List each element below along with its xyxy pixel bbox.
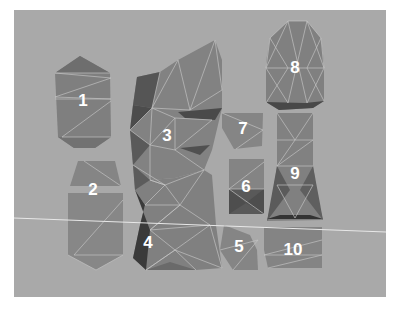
piece-3[interactable]: 3 <box>130 40 222 180</box>
piece-label-9: 9 <box>290 164 299 183</box>
piece-label-10: 10 <box>284 240 303 259</box>
piece-label-4: 4 <box>143 233 153 252</box>
piece-label-1: 1 <box>78 91 87 110</box>
piece-10[interactable]: 10 <box>264 227 322 268</box>
piece-2[interactable]: 2 <box>68 161 123 270</box>
piece-7[interactable]: 7 <box>222 113 263 149</box>
piece-label-5: 5 <box>234 237 243 256</box>
piece-9[interactable]: 9 <box>267 113 323 221</box>
piece-label-6: 6 <box>241 177 250 196</box>
pieces-layer: 1 2 3 4 5 <box>0 0 400 310</box>
piece-label-7: 7 <box>238 119 247 138</box>
piece-8[interactable]: 8 <box>266 21 324 110</box>
piece-5[interactable]: 5 <box>220 225 258 270</box>
piece-label-3: 3 <box>162 126 171 145</box>
piece-label-8: 8 <box>290 58 299 77</box>
piece-label-2: 2 <box>88 180 97 199</box>
piece-6[interactable]: 6 <box>229 159 264 214</box>
piece-4[interactable]: 4 <box>133 165 222 270</box>
piece-1[interactable]: 1 <box>55 56 111 148</box>
